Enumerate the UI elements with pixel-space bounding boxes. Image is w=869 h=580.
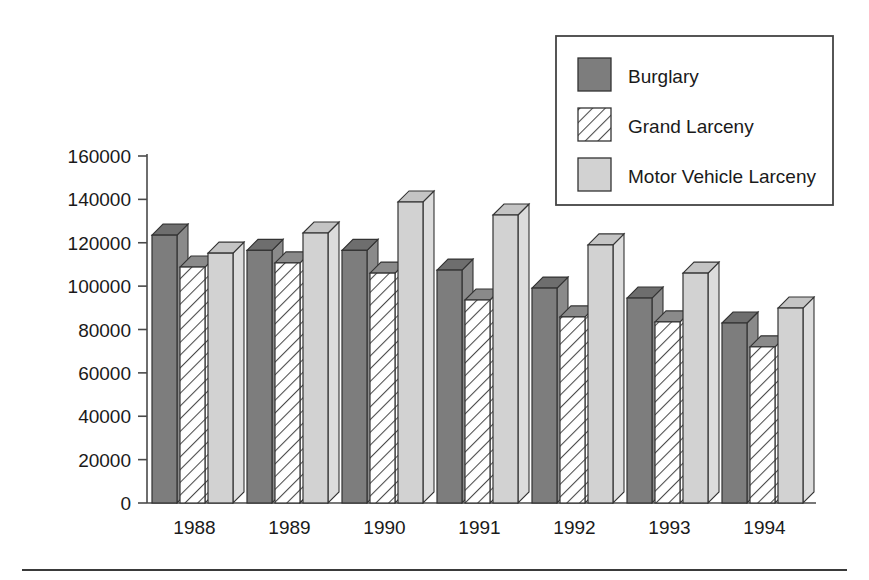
bar-front-face <box>532 288 557 503</box>
bar-front-face <box>683 273 708 503</box>
x-axis-category-label: 1991 <box>458 517 500 538</box>
solid-dark-swatch <box>578 58 611 91</box>
bar-front-face <box>493 215 518 503</box>
y-axis-tick-label: 60000 <box>78 363 131 384</box>
bar-front-face <box>778 308 803 503</box>
legend-item-label: Grand Larceny <box>628 116 754 137</box>
bar-motor-vehicle-larceny-1994 <box>778 297 814 503</box>
bar-front-face <box>208 253 233 503</box>
bar-front-face <box>303 233 328 503</box>
x-axis-category-label: 1990 <box>363 517 405 538</box>
bar-side-face <box>518 204 529 503</box>
bar-front-face <box>398 202 423 503</box>
y-axis-tick-label: 160000 <box>68 146 131 167</box>
chart-legend: BurglaryGrand LarcenyMotor Vehicle Larce… <box>556 36 833 205</box>
bar-motor-vehicle-larceny-1990 <box>398 191 434 503</box>
bar-front-face <box>560 317 585 503</box>
bar-front-face <box>750 347 775 503</box>
x-axis-category-label: 1988 <box>173 517 215 538</box>
x-axis-category-label: 1994 <box>743 517 786 538</box>
bar-front-face <box>655 322 680 503</box>
bar-front-face <box>370 273 395 503</box>
bar-side-face <box>613 234 624 503</box>
bar-side-face <box>803 297 814 503</box>
bar-front-face <box>342 250 367 503</box>
hatched-swatch <box>578 108 611 141</box>
bar-side-face <box>233 242 244 503</box>
x-axis-category-label: 1992 <box>553 517 595 538</box>
y-axis-tick-label: 140000 <box>68 189 131 210</box>
bar-side-face <box>708 262 719 503</box>
y-axis-tick-label: 40000 <box>78 406 131 427</box>
x-axis-category-label: 1989 <box>268 517 310 538</box>
bar-motor-vehicle-larceny-1991 <box>493 204 529 503</box>
bar-front-face <box>180 267 205 503</box>
bar-front-face <box>588 245 613 503</box>
bar-front-face <box>465 300 490 503</box>
bar-front-face <box>437 270 462 503</box>
bar-front-face <box>627 298 652 503</box>
bar-front-face <box>275 263 300 503</box>
bar-motor-vehicle-larceny-1988 <box>208 242 244 503</box>
legend-item-label: Motor Vehicle Larceny <box>628 166 816 187</box>
bars-layer <box>152 191 814 503</box>
bar-motor-vehicle-larceny-1993 <box>683 262 719 503</box>
y-axis-tick-label: 100000 <box>68 276 131 297</box>
y-axis-tick-label: 20000 <box>78 450 131 471</box>
bar-front-face <box>247 250 272 503</box>
bar-motor-vehicle-larceny-1992 <box>588 234 624 503</box>
bar-chart-figure: 0200004000060000800001000001200001400001… <box>0 0 869 580</box>
bar-motor-vehicle-larceny-1989 <box>303 222 339 503</box>
bar-front-face <box>722 323 747 503</box>
bar-side-face <box>423 191 434 503</box>
legend-item-label: Burglary <box>628 66 699 87</box>
y-axis-tick-label: 80000 <box>78 320 131 341</box>
y-axis-tick-label: 0 <box>120 493 131 514</box>
chart-canvas: 0200004000060000800001000001200001400001… <box>0 0 869 580</box>
y-axis-tick-label: 120000 <box>68 233 131 254</box>
y-axis-tick-labels: 0200004000060000800001000001200001400001… <box>68 146 131 514</box>
x-axis-category-label: 1993 <box>648 517 690 538</box>
x-axis-category-labels: 1988198919901991199219931994 <box>173 517 786 538</box>
bar-side-face <box>328 222 339 503</box>
bar-front-face <box>152 235 177 503</box>
solid-light-swatch <box>578 158 611 191</box>
